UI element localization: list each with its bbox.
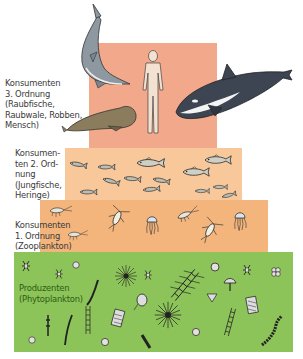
label-line: ten 2. Ord- [15, 159, 62, 170]
fish-school-icon [69, 155, 236, 200]
phytoplankton-icon [22, 261, 282, 348]
label-line: Produzenten [19, 283, 83, 294]
label-line: Raubwale, Robben, [5, 110, 82, 121]
label-line: Konsumenten [5, 78, 82, 89]
label-consumers-1: Konsumenten 1. Ordnung (Zooplankton) [15, 220, 72, 252]
label-line: Mensch) [5, 120, 82, 131]
label-line: 3. Ordnung [5, 89, 82, 100]
label-line: Konsumenten [15, 220, 72, 231]
label-producers: Produzenten (Phytoplankton) [19, 283, 83, 304]
label-line: nung [15, 169, 62, 180]
label-line: (Jungfische, [15, 180, 62, 191]
label-consumers-3: Konsumenten 3. Ordnung (Raubfische, Raub… [5, 78, 82, 131]
label-line: (Phytoplankton) [19, 294, 83, 305]
label-line: (Zooplankton) [15, 241, 72, 252]
orca-icon [176, 64, 292, 119]
label-line: Konsumen- [15, 148, 62, 159]
label-line: (Raubfische, [5, 99, 82, 110]
label-line: Heringe) [15, 190, 62, 201]
shark-icon [82, 4, 130, 88]
zooplankton-icon [50, 204, 246, 246]
human-icon [143, 51, 163, 134]
label-consumers-2: Konsumen- ten 2. Ord- nung (Jungfische, … [15, 148, 62, 201]
label-line: 1. Ordnung [15, 231, 72, 242]
